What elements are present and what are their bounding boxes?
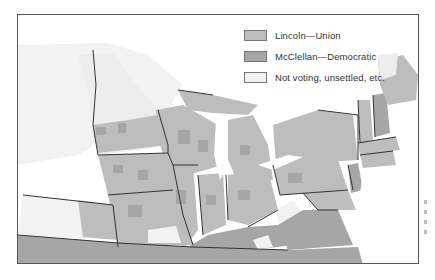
not-voting-swatch xyxy=(244,72,267,83)
legend-label-mcclellan: McClellan—Democratic xyxy=(275,51,376,62)
legend-item-lincoln: Lincoln—Union xyxy=(244,25,385,46)
map-legend: Lincoln—Union McClellan—Democratic Not v… xyxy=(244,25,385,88)
state-vermont xyxy=(358,100,373,143)
election-map: Lincoln—Union McClellan—Democratic Not v… xyxy=(17,14,419,264)
lincoln-swatch xyxy=(244,30,267,41)
lake-michigan xyxy=(214,120,228,180)
legend-label-lincoln: Lincoln—Union xyxy=(275,30,341,41)
legend-label-not-voting: Not voting, unsettled, etc. xyxy=(275,72,385,83)
state-pennsylvania xyxy=(273,160,348,195)
state-iowa xyxy=(98,153,173,195)
legend-item-not-voting: Not voting, unsettled, etc. xyxy=(244,67,385,88)
atlantic-ocean xyxy=(356,165,419,264)
cropped-caption-fragment xyxy=(424,200,430,250)
legend-item-mcclellan: McClellan—Democratic xyxy=(244,46,385,67)
mcclellan-swatch xyxy=(244,51,267,62)
